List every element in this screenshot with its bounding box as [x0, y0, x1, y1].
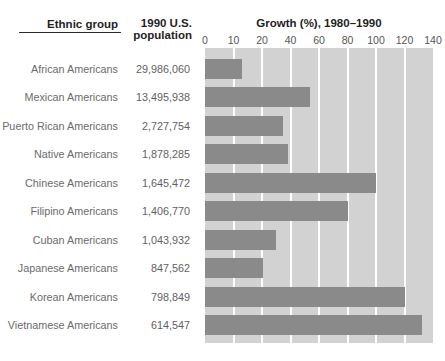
x-tick-label: 20 — [256, 34, 268, 46]
x-axis-ticks: 01020406080100120140 — [0, 34, 445, 46]
growth-bar — [205, 144, 288, 164]
growth-bar — [205, 287, 405, 307]
table-row: Puerto Rican Americans2,727,754 — [0, 116, 192, 136]
table-row: Vietnamese Americans614,547 — [0, 315, 192, 335]
table-row: Native Americans1,878,285 — [0, 144, 192, 164]
population-value: 1,043,932 — [118, 230, 190, 250]
plot-area — [205, 48, 433, 343]
table-row: Filipino Americans1,406,770 — [0, 201, 192, 221]
population-value: 1,406,770 — [118, 201, 190, 221]
ethnic-group-label: Filipino Americans — [0, 201, 118, 221]
x-tick-label: 140 — [424, 34, 442, 46]
growth-bar — [205, 315, 422, 335]
population-value: 1,878,285 — [118, 144, 190, 164]
growth-bar — [205, 87, 310, 107]
growth-bar — [205, 59, 242, 79]
growth-bar — [205, 173, 376, 193]
population-value: 614,547 — [118, 315, 190, 335]
ethnic-group-label: Korean Americans — [0, 287, 118, 307]
growth-bar — [205, 258, 263, 278]
x-tick-label: 40 — [285, 34, 297, 46]
table-row: Mexican Americans13,495,938 — [0, 87, 192, 107]
population-value: 29,986,060 — [118, 59, 190, 79]
population-value: 2,727,754 — [118, 116, 190, 136]
ethnic-group-header: Ethnic group — [0, 18, 118, 30]
population-value: 798,849 — [118, 287, 190, 307]
ethnic-group-label: African Americans — [0, 59, 118, 79]
table-row: Japanese Americans847,562 — [0, 258, 192, 278]
population-value: 1,645,472 — [118, 173, 190, 193]
x-tick-label: 10 — [228, 34, 240, 46]
table-row: Chinese Americans1,645,472 — [0, 173, 192, 193]
ethnic-group-label: Japanese Americans — [0, 258, 118, 278]
table-row: Korean Americans798,849 — [0, 287, 192, 307]
growth-bar — [205, 116, 283, 136]
population-header-line1: 1990 U.S. — [141, 17, 192, 29]
ethnic-group-label: Vietnamese Americans — [0, 315, 118, 335]
table-row: African Americans29,986,060 — [0, 59, 192, 79]
table-row: Cuban Americans1,043,932 — [0, 230, 192, 250]
ethnic-group-label: Puerto Rican Americans — [0, 116, 118, 136]
ethnic-group-label: Mexican Americans — [0, 87, 118, 107]
x-tick-label: 0 — [202, 34, 208, 46]
growth-bar — [205, 201, 348, 221]
ethnic-group-label: Chinese Americans — [0, 173, 118, 193]
ethnic-group-header-underline — [19, 32, 121, 33]
x-tick-label: 120 — [396, 34, 414, 46]
growth-bar — [205, 230, 276, 250]
x-tick-label: 80 — [342, 34, 354, 46]
ethnic-group-label: Cuban Americans — [0, 230, 118, 250]
x-tick-label: 60 — [313, 34, 325, 46]
population-value: 847,562 — [118, 258, 190, 278]
population-value: 13,495,938 — [118, 87, 190, 107]
growth-axis-title: Growth (%), 1980–1990 — [205, 17, 433, 29]
ethnic-group-label: Native Americans — [0, 144, 118, 164]
x-tick-label: 100 — [367, 34, 385, 46]
ethnic-growth-figure: Ethnic group 1990 U.S. population Growth… — [0, 0, 445, 361]
